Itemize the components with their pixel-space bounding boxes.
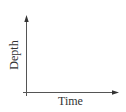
axes-diagram: Time Depth: [0, 0, 126, 112]
x-axis-arrow-icon: [112, 90, 119, 94]
y-axis-label: Depth: [8, 40, 20, 69]
y-axis-arrow-icon: [24, 15, 28, 22]
x-axis-label: Time: [58, 95, 83, 107]
